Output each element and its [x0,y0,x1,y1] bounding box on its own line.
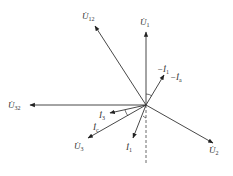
vector-U2-label: U̇2 [209,145,219,156]
vector-U3 [88,105,146,138]
vector-U32-label: U̇32 [8,100,21,111]
vector-I1 [133,105,146,138]
vector-minus-I1-Ia-label: −İ1 [157,64,169,75]
vector-minus-I1-Ia [146,75,164,105]
vector-I1-label: İ1 [125,142,132,153]
vector-U1-label: U̇1 [140,17,150,28]
angle-arc-bottom [143,116,146,118]
vector-U12 [95,26,146,105]
angle-arc-top [146,94,152,96]
vector-Ia-label: −İa [170,72,182,83]
vector-U12-label: U̇12 [82,11,95,22]
vector-I3-label: İ3 [98,110,105,121]
vector-I3 [110,105,146,113]
vector-U3-label: U̇3 [74,141,84,152]
vector-Ic-label: İc [92,122,99,133]
vector-U2 [146,105,213,143]
angle-arc-left [125,110,128,116]
phasor-diagram: U̇1U̇12U̇32U̇3U̇2−İ1İ3İ1−İaİc [0,0,233,176]
